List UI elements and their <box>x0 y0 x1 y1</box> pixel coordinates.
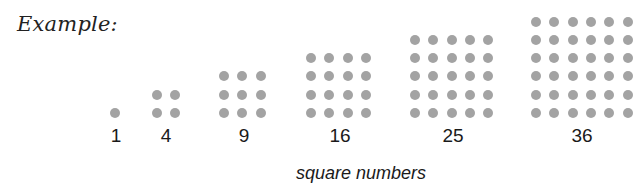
dot-icon <box>549 71 559 81</box>
dot-icon <box>586 53 596 63</box>
dot-icon <box>361 53 371 63</box>
dot-icon <box>568 90 578 100</box>
dot-icon <box>586 35 596 45</box>
dot-icon <box>623 71 633 81</box>
dot-icon <box>361 90 371 100</box>
dot-icon <box>604 53 614 63</box>
dot-icon <box>170 108 180 118</box>
dot-icon <box>410 53 420 63</box>
dot-icon <box>219 108 229 118</box>
dot-icon <box>568 35 578 45</box>
dot-icon <box>324 90 334 100</box>
dot-icon <box>531 35 541 45</box>
dot-icon <box>586 71 596 81</box>
dot-icon <box>465 53 475 63</box>
dot-icon <box>604 35 614 45</box>
dot-icon <box>586 17 596 27</box>
dot-icon <box>447 108 457 118</box>
dot-icon <box>343 90 353 100</box>
dot-icon <box>428 108 438 118</box>
dot-icon <box>428 35 438 45</box>
dot-icon <box>465 35 475 45</box>
dot-icon <box>549 17 559 27</box>
dot-icon <box>483 35 493 45</box>
dot-icon <box>361 108 371 118</box>
dot-icon <box>531 108 541 118</box>
dot-icon <box>604 17 614 27</box>
square-number-label: 25 <box>442 125 463 147</box>
dot-icon <box>604 90 614 100</box>
dot-icon <box>237 90 247 100</box>
dot-icon <box>256 71 266 81</box>
dot-icon <box>410 71 420 81</box>
dot-icon <box>531 90 541 100</box>
dot-icon <box>568 108 578 118</box>
dot-icon <box>410 90 420 100</box>
dot-icon <box>343 53 353 63</box>
example-title: Example: <box>17 12 118 36</box>
dot-icon <box>324 53 334 63</box>
dot-icon <box>586 108 596 118</box>
dot-icon <box>623 108 633 118</box>
dot-icon <box>256 108 266 118</box>
dot-icon <box>465 90 475 100</box>
dot-icon <box>237 71 247 81</box>
dot-icon <box>343 71 353 81</box>
dot-icon <box>623 17 633 27</box>
dot-icon <box>568 53 578 63</box>
square-number-label: 1 <box>111 125 122 147</box>
dot-icon <box>623 53 633 63</box>
dot-icon <box>447 35 457 45</box>
caption: square numbers <box>296 163 426 184</box>
dot-icon <box>531 71 541 81</box>
dot-icon <box>306 71 316 81</box>
dot-icon <box>324 108 334 118</box>
dot-icon <box>623 90 633 100</box>
dot-icon <box>465 108 475 118</box>
dot-icon <box>447 71 457 81</box>
dot-icon <box>428 53 438 63</box>
dot-icon <box>483 53 493 63</box>
dot-icon <box>361 71 371 81</box>
dot-icon <box>465 71 475 81</box>
dot-icon <box>306 108 316 118</box>
dot-icon <box>410 108 420 118</box>
square-number-label: 9 <box>239 125 250 147</box>
dot-icon <box>219 71 229 81</box>
dot-icon <box>152 90 162 100</box>
dot-icon <box>306 90 316 100</box>
dot-icon <box>324 71 334 81</box>
dot-icon <box>531 17 541 27</box>
dot-icon <box>306 53 316 63</box>
dot-icon <box>568 17 578 27</box>
dot-icon <box>549 35 559 45</box>
dot-icon <box>428 71 438 81</box>
dot-icon <box>428 90 438 100</box>
dot-icon <box>447 90 457 100</box>
dot-icon <box>152 108 162 118</box>
dot-icon <box>623 35 633 45</box>
dot-icon <box>586 90 596 100</box>
dot-icon <box>256 90 266 100</box>
square-number-label: 4 <box>161 125 172 147</box>
dot-icon <box>483 90 493 100</box>
dot-icon <box>219 90 229 100</box>
dot-icon <box>549 53 559 63</box>
dot-icon <box>110 108 120 118</box>
dot-icon <box>531 53 541 63</box>
dot-icon <box>568 71 578 81</box>
dot-icon <box>604 108 614 118</box>
square-number-label: 16 <box>329 125 350 147</box>
dot-icon <box>343 108 353 118</box>
dot-icon <box>410 35 420 45</box>
dot-icon <box>447 53 457 63</box>
dot-icon <box>604 71 614 81</box>
dot-icon <box>549 108 559 118</box>
dot-icon <box>483 71 493 81</box>
dot-icon <box>237 108 247 118</box>
dot-icon <box>170 90 180 100</box>
square-number-label: 36 <box>571 125 592 147</box>
dot-icon <box>549 90 559 100</box>
dot-icon <box>483 108 493 118</box>
